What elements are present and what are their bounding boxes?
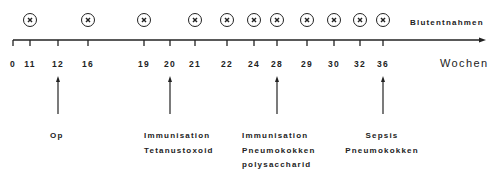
event-label-line: Pneumokokken bbox=[242, 144, 316, 159]
circled-x-icon bbox=[221, 14, 234, 27]
tick-label: 20 bbox=[164, 60, 176, 69]
axis-arrowhead-icon bbox=[479, 38, 486, 43]
event-label-line: polysaccharid bbox=[242, 158, 316, 173]
event-arrow-icon bbox=[56, 76, 60, 114]
axis-ticks bbox=[13, 40, 383, 46]
event-label: Op bbox=[50, 129, 64, 144]
event-label-line: Pneumokokken bbox=[345, 144, 419, 159]
tick-label: 28 bbox=[271, 60, 283, 69]
circled-x-icon bbox=[377, 14, 390, 27]
sampling-legend-label: Blutentnahmen bbox=[410, 19, 484, 27]
event-label: ImmunisationTetanustoxoid bbox=[144, 129, 214, 158]
tick-label: 16 bbox=[82, 60, 94, 69]
event-arrow-icon bbox=[168, 76, 172, 114]
tick-label: 12 bbox=[52, 60, 64, 69]
event-arrow-icon bbox=[275, 76, 279, 114]
event-label-line: Immunisation bbox=[242, 129, 316, 144]
tick-label: 36 bbox=[377, 60, 389, 69]
circled-x-icon bbox=[354, 14, 367, 27]
event-label-line: Immunisation bbox=[144, 129, 214, 144]
event-arrows bbox=[56, 76, 385, 114]
tick-label: 24 bbox=[248, 60, 260, 69]
circled-x-icon bbox=[189, 14, 202, 27]
circled-x-icon bbox=[271, 14, 284, 27]
circled-x-icon bbox=[248, 14, 261, 27]
blood-sample-markers bbox=[24, 14, 390, 27]
tick-label: 22 bbox=[221, 60, 233, 69]
tick-label: 0 bbox=[10, 60, 16, 69]
event-label: ImmunisationPneumokokkenpolysaccharid bbox=[242, 129, 316, 173]
circled-x-icon bbox=[328, 14, 341, 27]
tick-label: 29 bbox=[301, 60, 313, 69]
tick-label: 30 bbox=[328, 60, 340, 69]
tick-label: 32 bbox=[354, 60, 366, 69]
axis-unit-label: Wochen bbox=[440, 58, 489, 69]
tick-label: 21 bbox=[189, 60, 201, 69]
time-axis bbox=[13, 38, 486, 43]
event-label: SepsisPneumokokken bbox=[345, 129, 419, 158]
event-label-line: Tetanustoxoid bbox=[144, 144, 214, 159]
tick-label: 11 bbox=[24, 60, 36, 69]
tick-label: 19 bbox=[138, 60, 150, 69]
circled-x-icon bbox=[138, 14, 151, 27]
circled-x-icon bbox=[301, 14, 314, 27]
circled-x-icon bbox=[24, 14, 37, 27]
event-label-line: Op bbox=[50, 129, 64, 144]
circled-x-icon bbox=[82, 14, 95, 27]
event-label-line: Sepsis bbox=[345, 129, 419, 144]
event-arrow-icon bbox=[381, 76, 385, 114]
